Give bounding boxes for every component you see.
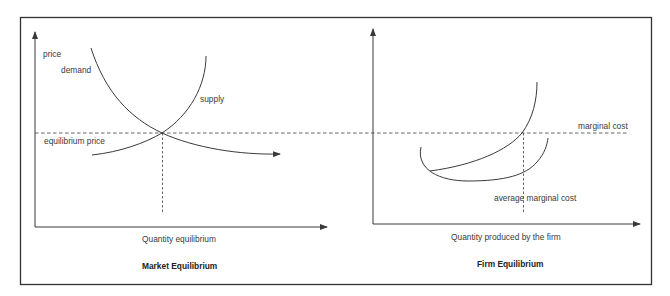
marginal-cost-label: marginal cost [578,120,628,131]
quantity-equilibrium-label: Quantity equilibrium [142,233,216,244]
average-marginal-cost-label: average marginal cost [494,192,576,203]
supply-label: supply [200,93,224,104]
equilibrium-price-label: equilibrium price [44,135,105,146]
average-cost-curve [420,138,548,181]
marginal-cost-curve [430,82,537,171]
equilibrium-diagram [0,0,670,296]
price-axis-label: price [43,48,61,59]
market-equilibrium-title: Market Equilibrium [142,260,217,271]
firm-equilibrium-title: Firm Equilibrium [477,258,543,269]
quantity-firm-label: Quantity produced by the firm [451,231,561,242]
demand-curve [91,48,280,154]
demand-label: demand [61,64,91,75]
supply-curve [92,56,206,155]
